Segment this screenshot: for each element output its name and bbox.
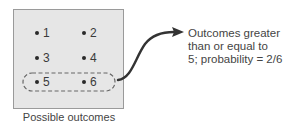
annotation-line-1: Outcomes greater	[188, 27, 282, 40]
annotation-text: Outcomes greater than or equal to 5; pro…	[188, 27, 282, 66]
caption: Possible outcomes	[14, 111, 124, 123]
annotation-line-2: than or equal to	[188, 40, 282, 53]
curved-arrow-icon	[118, 32, 174, 80]
annotation-line-3: 5; probability = 2/6	[188, 53, 282, 66]
highlight-dashed-outline	[23, 73, 115, 91]
